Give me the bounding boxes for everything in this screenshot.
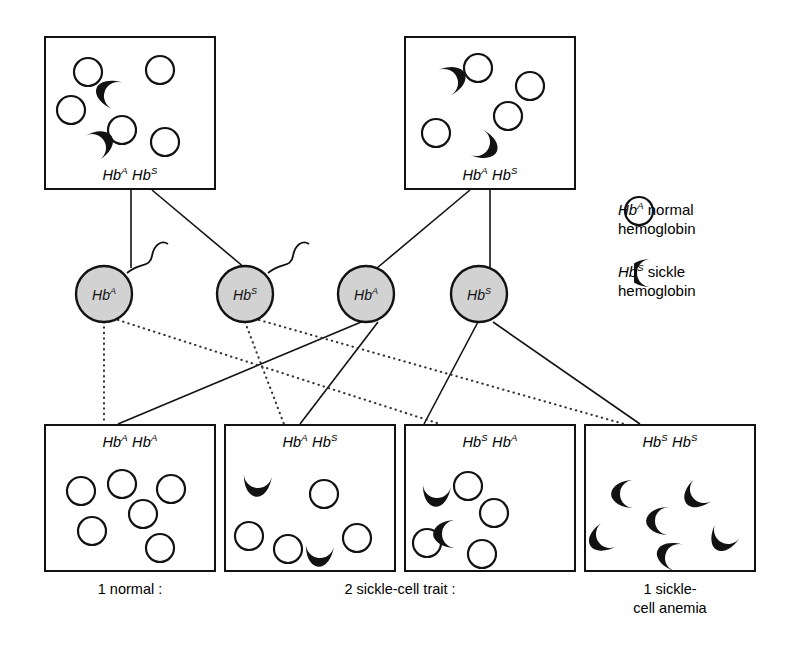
sperm-tail [268, 243, 309, 274]
normal-cell [235, 522, 263, 550]
offspring-2-genotype: HbA HbS [226, 432, 394, 450]
normal-cell [67, 477, 95, 505]
offspring-box-3: HbS HbA [404, 424, 576, 572]
normal-cell [310, 480, 338, 508]
sperm-tail [127, 243, 168, 274]
gamete-sperm-a [76, 266, 132, 322]
sickle-cell [646, 507, 669, 535]
offspring-box-1: HbA HbA [44, 424, 216, 572]
gamete-sperm-s [217, 266, 273, 322]
sickle-cell [677, 478, 713, 514]
caption-normal: 1 normal : [44, 580, 216, 599]
sickle-cell [242, 473, 272, 498]
caption-anemia-line1: 1 sickle- [584, 580, 756, 599]
normal-cell [108, 470, 136, 498]
sickle-cell [704, 523, 740, 557]
normal-cell [157, 475, 185, 503]
normal-cell [480, 499, 508, 527]
normal-cell [468, 540, 496, 568]
legend-item-sickle: HbS sickle hemoglobin [618, 258, 668, 290]
caption-trait: 2 sickle-cell trait : [224, 580, 576, 599]
sickle-cell [304, 543, 334, 568]
legend-normal-line2: hemoglobin [618, 219, 696, 238]
sickle-cell [586, 522, 617, 558]
sickle-cell [611, 480, 634, 508]
sickle-cell [433, 520, 456, 548]
normal-cell [78, 517, 106, 545]
offspring-4-genotype: HbS HbS [586, 432, 754, 450]
normal-cell [343, 524, 371, 552]
sickle-cell [653, 538, 683, 572]
offspring-box-2: HbA HbS [224, 424, 396, 572]
legend-normal-text: HbA normal hemoglobin [618, 196, 696, 238]
legend-item-normal: HbA normal hemoglobin [618, 196, 656, 228]
caption-anemia-line2: cell anemia [584, 599, 756, 618]
sickle-cell [421, 483, 451, 508]
legend-sickle-line2: hemoglobin [618, 281, 696, 300]
figure-canvas: HbA HbS HbA HbS [0, 0, 805, 646]
offspring-box-4: HbS HbS [584, 424, 756, 572]
offspring-1-genotype: HbA HbA [46, 432, 214, 450]
gamete-egg-s [451, 266, 507, 322]
legend-sickle-line1: HbS sickle [618, 258, 696, 281]
normal-cell [274, 535, 302, 563]
gamete-egg-a [338, 266, 394, 322]
normal-cell [454, 472, 482, 500]
legend-normal-line1: HbA normal [618, 196, 696, 219]
normal-cell [146, 534, 174, 562]
legend-sickle-text: HbS sickle hemoglobin [618, 258, 696, 300]
caption-anemia: 1 sickle- cell anemia [584, 580, 756, 618]
offspring-3-genotype: HbS HbA [406, 432, 574, 450]
normal-cell [129, 500, 157, 528]
